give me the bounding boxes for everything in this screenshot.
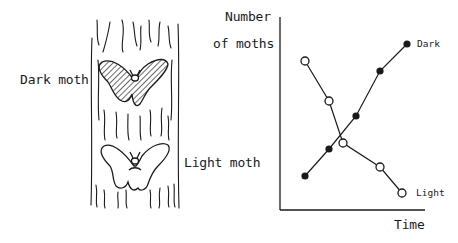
- x-axis-label: Time: [394, 217, 425, 232]
- light-point: [376, 163, 384, 171]
- y-axis-label-line2: of moths: [213, 36, 274, 51]
- light-point: [398, 189, 406, 197]
- dark-point: [301, 172, 308, 179]
- light-point: [325, 97, 333, 105]
- dark-point: [376, 67, 383, 74]
- dark-point: [403, 40, 410, 47]
- series-light: [301, 57, 406, 197]
- light-moth-icon: [101, 144, 169, 190]
- dark-moth-label: Dark moth: [20, 72, 89, 87]
- light-moth-label: Light moth: [184, 155, 260, 170]
- series-label-light: Light: [416, 187, 445, 198]
- series-dark: [301, 40, 410, 179]
- series-label-dark: Dark: [417, 38, 440, 49]
- dark-point: [352, 112, 359, 119]
- dark-moth-icon: [99, 60, 168, 106]
- dark-point: [325, 145, 332, 152]
- chart-axes: [280, 17, 425, 210]
- y-axis-label-line1: Number: [225, 9, 271, 24]
- light-point: [301, 57, 309, 65]
- light-point: [339, 139, 347, 147]
